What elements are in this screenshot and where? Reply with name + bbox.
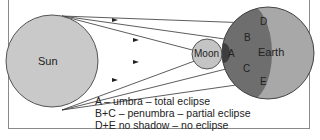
legend: A – umbra – total eclipse B+C – penumbra… <box>95 95 251 131</box>
legend-item-no-shadow: D+E no shadow – no eclipse <box>95 119 251 131</box>
region-label-e: E <box>260 76 267 87</box>
region-label-a: A <box>228 48 235 59</box>
sun-label: Sun <box>38 55 58 67</box>
earth-label: Earth <box>258 46 284 58</box>
region-label-c: C <box>243 63 250 74</box>
legend-item-penumbra: B+C – penumbra – partial eclipse <box>95 107 251 119</box>
region-label-b: B <box>244 32 251 43</box>
region-label-d: D <box>260 16 267 27</box>
moon-label: Moon <box>194 48 219 59</box>
legend-item-umbra: A – umbra – total eclipse <box>95 95 251 107</box>
